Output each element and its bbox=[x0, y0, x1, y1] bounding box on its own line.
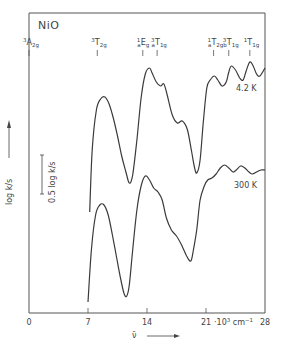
x-tick-label: 21 bbox=[201, 318, 211, 327]
term-labels: 3A2g3T2g1aEg3aT1g1aT2g3bT1g1T1g bbox=[23, 37, 259, 56]
svg-text:1aT2g: 1aT2g bbox=[208, 37, 224, 49]
svg-text:ν̄: ν̄ bbox=[132, 331, 137, 340]
plot-frame bbox=[29, 13, 265, 313]
arrow-right-icon bbox=[174, 334, 180, 338]
y-axis-label: log k/s bbox=[5, 120, 14, 205]
svg-text:3A2g: 3A2g bbox=[23, 37, 39, 49]
svg-text:log k/s: log k/s bbox=[5, 179, 14, 205]
absorption-spectrum-chart: NiO 3A2g3T2g1aEg3aT1g1aT2g3bT1g1T1g 0714… bbox=[0, 0, 281, 346]
term-label: 3bT1g bbox=[223, 37, 239, 56]
x-tick-label: 14 bbox=[142, 318, 152, 327]
svg-text:3T2g: 3T2g bbox=[91, 37, 106, 49]
x-tick-label: 28 bbox=[260, 318, 270, 327]
x-unit-label: ·103 cm−1 bbox=[214, 317, 253, 327]
svg-text:1T1g: 1T1g bbox=[244, 37, 259, 49]
scale-bar: 0.5 log k/s bbox=[40, 155, 57, 203]
term-label: 1T1g bbox=[244, 37, 259, 56]
term-label: 3aT1g bbox=[151, 37, 167, 56]
x-tick-label: 7 bbox=[85, 318, 90, 327]
svg-text:0.5 log k/s: 0.5 log k/s bbox=[48, 162, 57, 204]
series-label-300k: 300 K bbox=[234, 181, 258, 190]
term-label: 3A2g bbox=[23, 37, 39, 56]
chart-title: NiO bbox=[38, 19, 59, 32]
x-tick-label: 0 bbox=[26, 318, 31, 327]
x-axis-label: ν̄ bbox=[132, 331, 180, 340]
svg-text:3aT1g: 3aT1g bbox=[151, 37, 167, 49]
arrow-up-icon bbox=[7, 120, 11, 128]
svg-text:3bT1g: 3bT1g bbox=[223, 37, 239, 49]
svg-text:1aEg: 1aEg bbox=[137, 37, 149, 49]
series-label-4-2k: 4.2 K bbox=[236, 84, 257, 93]
term-label: 1aEg bbox=[137, 37, 149, 56]
term-label: 1aT2g bbox=[208, 37, 224, 56]
term-label: 3T2g bbox=[91, 37, 106, 56]
